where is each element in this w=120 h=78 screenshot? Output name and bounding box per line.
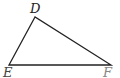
triangle-def (9, 17, 111, 65)
vertex-label-d: D (29, 1, 41, 16)
vertex-label-f: F (102, 65, 113, 78)
triangle-diagram: D E F (0, 0, 120, 78)
vertex-label-e: E (2, 65, 13, 78)
